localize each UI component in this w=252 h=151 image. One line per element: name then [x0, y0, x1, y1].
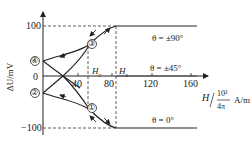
point-label-1: ①	[88, 103, 95, 113]
x-tick-40: 40	[72, 79, 82, 89]
x-axis-label-den: 4π	[217, 102, 225, 112]
y-tick-0: 0	[33, 72, 38, 82]
point-label-2: ②	[31, 88, 38, 98]
curve-theta-90	[43, 26, 197, 61]
theta-45-label: θ = ±45°	[150, 63, 181, 73]
theta-90-label: θ = ±90°	[152, 33, 183, 43]
y-axis-label: ΔU/mV	[5, 63, 15, 91]
y-tick-100: 100	[26, 21, 41, 31]
x-axis-label-unit: A/m	[234, 95, 250, 105]
point-label-4: ④	[31, 56, 38, 66]
x-axis-label-h: H	[202, 93, 209, 103]
point-label-3: ③	[88, 39, 95, 49]
hs-label: Hs	[119, 66, 128, 80]
x-tick-80: 80	[104, 79, 114, 89]
theta-0-label: θ = 0°	[152, 115, 174, 125]
curve-theta-45-b	[43, 44, 90, 93]
x-axis-label-num: 10³	[217, 89, 227, 99]
guide-lines	[43, 26, 116, 128]
x-tick-120: 120	[143, 79, 158, 89]
x-tick-160: 160	[183, 79, 198, 89]
y-tick-minus100: −100	[21, 123, 42, 133]
hc-label: Hc	[92, 66, 101, 80]
